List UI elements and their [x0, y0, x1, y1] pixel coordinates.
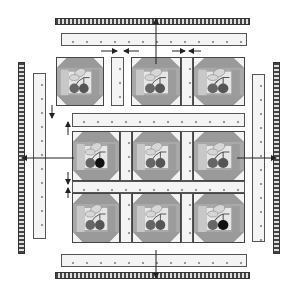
cherry-icon	[218, 83, 228, 93]
top-border-strip	[61, 33, 247, 46]
cherry-icon	[218, 220, 228, 230]
quilt-block-r2c2	[132, 131, 181, 181]
right-panel	[168, 206, 176, 232]
leaf-icon	[85, 211, 95, 217]
quilt-block-r2c3	[193, 131, 245, 181]
right-panel	[92, 70, 100, 95]
right-panel	[232, 206, 240, 232]
cherry-icon	[208, 220, 218, 230]
horizontal-sashing-1	[72, 113, 245, 127]
cherry-icon	[79, 83, 89, 93]
cherry-icon	[145, 83, 155, 93]
leaf-icon	[146, 149, 156, 155]
cherry-icon	[208, 83, 218, 93]
bottom-border-strip	[61, 254, 247, 267]
right-panel	[108, 144, 116, 170]
leaf-icon	[208, 211, 218, 217]
vertical-sashing-r1a	[111, 57, 124, 106]
cherry-icon	[155, 83, 165, 93]
quilt-block-r3c3	[193, 193, 245, 243]
right-panel	[168, 70, 176, 95]
vertical-sashing-r3a	[120, 193, 132, 243]
leaf-icon	[85, 149, 95, 155]
vertical-sashing-r2a	[120, 131, 132, 181]
right-panel	[232, 70, 240, 95]
cherry-icon	[156, 158, 166, 168]
bottom-binding	[55, 272, 250, 279]
left-panel	[61, 70, 69, 95]
left-border-strip	[33, 73, 46, 239]
left-panel	[137, 144, 145, 170]
cherry-icon	[95, 220, 105, 230]
leaf-icon	[69, 75, 79, 81]
quilt-block-r3c2	[132, 193, 181, 243]
left-panel	[198, 144, 206, 170]
cherry-icon	[208, 158, 218, 168]
right-panel	[108, 206, 116, 232]
quilt-block-r1c2	[131, 57, 181, 106]
leaf-icon	[208, 149, 218, 155]
cherry-icon	[69, 83, 79, 93]
left-panel	[137, 206, 145, 232]
quilt-block-r1c3	[193, 57, 245, 106]
leaf-icon	[145, 75, 155, 81]
left-panel	[77, 144, 85, 170]
horizontal-sashing-2	[72, 181, 245, 193]
cherry-icon	[85, 158, 95, 168]
vertical-sashing-r2b	[181, 131, 193, 181]
cherry-icon	[156, 220, 166, 230]
cherry-icon	[146, 220, 156, 230]
vertical-sashing-r3b	[181, 193, 193, 243]
quilt-block-r1c1	[56, 57, 104, 106]
top-binding	[55, 18, 250, 25]
cherry-icon	[85, 220, 95, 230]
quilt-block-r3c1	[72, 193, 120, 243]
left-panel	[136, 70, 144, 95]
vertical-sashing-r1b	[181, 57, 193, 106]
left-binding	[18, 62, 25, 254]
left-panel	[198, 70, 206, 95]
leaf-icon	[208, 75, 218, 81]
right-panel	[168, 144, 176, 170]
cherry-icon	[218, 158, 228, 168]
right-binding	[273, 62, 280, 254]
quilt-block-r2c1	[72, 131, 120, 181]
left-panel	[198, 206, 206, 232]
cherry-icon	[95, 158, 105, 168]
leaf-icon	[146, 211, 156, 217]
cherry-icon	[146, 158, 156, 168]
right-panel	[232, 144, 240, 170]
right-border-strip	[252, 74, 265, 242]
left-panel	[77, 206, 85, 232]
